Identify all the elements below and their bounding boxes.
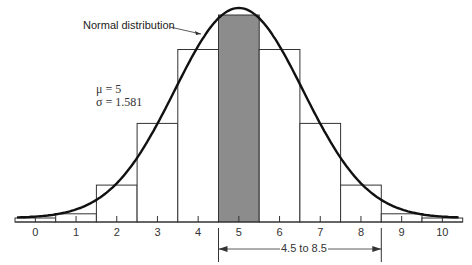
sigma-label: σ = 1.581 [96,96,142,109]
histogram-bar [137,123,178,222]
x-tick-label: 3 [147,227,167,238]
distribution-parameters: μ = 5 σ = 1.581 [96,83,142,109]
highlighted-bar [219,15,260,222]
histogram-bar [259,50,300,223]
x-tick-label: 10 [432,227,452,238]
x-tick-label: 6 [270,227,290,238]
x-tick-label: 5 [229,227,249,238]
x-tick-label: 8 [351,227,371,238]
arrow-right-icon [372,246,381,252]
x-tick-label: 9 [392,227,412,238]
x-tick-label: 2 [107,227,127,238]
x-tick-label: 7 [310,227,330,238]
arrow-left-icon [219,246,228,252]
x-tick-label: 1 [66,227,86,238]
range-label: 4.5 to 8.5 [280,243,328,254]
histogram-bar [300,123,341,222]
x-tick-label: 4 [188,227,208,238]
x-tick-label: 0 [25,227,45,238]
curve-label: Normal distribution [83,20,175,31]
leader-arrowhead-icon [195,31,201,35]
histogram-bar [178,50,219,223]
